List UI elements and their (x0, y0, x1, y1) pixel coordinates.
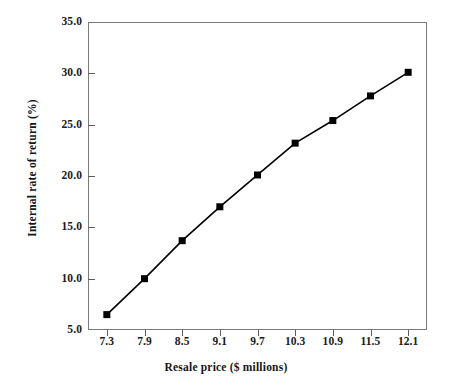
y-axis-tick-mark (88, 176, 95, 177)
y-axis-tick-label: 5.0 (36, 324, 82, 336)
y-axis-tick-mark (88, 279, 95, 280)
y-axis-tick-label: 25.0 (36, 119, 82, 131)
chart-data-layer (88, 22, 427, 330)
y-axis-tick-mark (88, 73, 95, 74)
data-point-marker (405, 69, 412, 76)
x-axis-tick-label: 9.7 (250, 336, 265, 348)
x-axis-tick-label: 10.9 (323, 336, 344, 348)
x-axis-tick-label: 10.3 (285, 336, 306, 348)
series-markers (103, 69, 411, 318)
data-point-marker (292, 140, 299, 147)
data-point-marker (216, 203, 223, 210)
x-axis-tick-label: 11.5 (361, 336, 381, 348)
data-point-marker (254, 171, 261, 178)
series-line-internal-rate-of-return (107, 72, 408, 314)
y-axis-title: Internal rate of return (%) (26, 58, 38, 278)
x-axis-tick-labels: 7.37.98.59.19.710.310.911.512.1 (0, 336, 452, 354)
data-point-marker (103, 311, 110, 318)
chart-figure: 5.010.015.020.025.030.035.0 7.37.98.59.1… (0, 0, 452, 388)
data-point-marker (179, 237, 186, 244)
y-axis-tick-label: 35.0 (36, 16, 82, 28)
y-axis-tick-label: 10.0 (36, 273, 82, 285)
x-axis-title: Resale price ($ millions) (0, 361, 452, 373)
x-axis-tick-label: 7.3 (99, 336, 114, 348)
data-point-marker (329, 117, 336, 124)
data-point-marker (367, 92, 374, 99)
y-axis-tick-label: 20.0 (36, 170, 82, 182)
x-axis-tick-label: 8.5 (175, 336, 190, 348)
y-axis-tick-mark (88, 227, 95, 228)
y-axis-tick-mark (88, 125, 95, 126)
y-axis-tick-label: 15.0 (36, 221, 82, 233)
data-point-marker (141, 275, 148, 282)
x-axis-tick-label: 7.9 (137, 336, 152, 348)
x-axis-tick-label: 9.1 (212, 336, 227, 348)
x-axis-tick-label: 12.1 (398, 336, 419, 348)
y-axis-tick-label: 30.0 (36, 67, 82, 79)
